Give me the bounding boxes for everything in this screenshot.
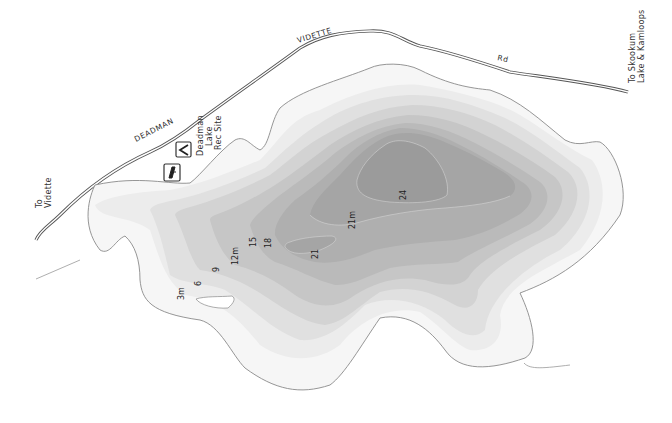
rec-site-line2: Lake [205, 126, 214, 146]
depth-label-21m: 21m [348, 211, 357, 229]
depth-label-24: 24 [399, 190, 408, 200]
depth-label-9: 9 [212, 267, 221, 272]
campground-icon[interactable] [176, 142, 191, 157]
dest-west-line1: To [35, 199, 44, 209]
depth-label-12m: 12m [231, 247, 240, 265]
depth-label-21: 21 [311, 249, 320, 259]
depth-label-6: 6 [194, 281, 203, 286]
stream-west [36, 260, 80, 279]
lake-map: DEADMAN VIDETTE Rd To Vidette To Skookum… [0, 0, 672, 423]
dest-east-line2-v: Lake & Kamloops [637, 9, 646, 83]
depth-label-18: 18 [264, 238, 273, 248]
dest-west-line2: Vidette [44, 177, 53, 208]
road-label-deadman: DEADMAN [133, 116, 175, 143]
depth-label-15: 15 [249, 237, 258, 247]
road-label-rd: Rd [497, 53, 510, 64]
dest-east-line1-v: To Skookum [628, 33, 637, 84]
stream-south [524, 363, 570, 368]
depth-label-3m: 3m [177, 287, 186, 300]
rec-site-line3: Rec Site [214, 115, 223, 150]
boat-launch-icon[interactable] [164, 164, 180, 181]
rec-site-line1: Deadman [196, 115, 205, 156]
